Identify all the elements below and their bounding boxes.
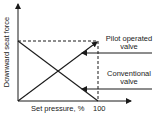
- x-tick-100: 100: [93, 105, 106, 113]
- pilot-label-line2: valve: [104, 43, 154, 51]
- diagram-canvas: [0, 0, 161, 118]
- conventional-label-line2: valve: [104, 78, 154, 86]
- y-axis-label: Downward seat force: [2, 17, 11, 87]
- pilot-operated-valve-line: [18, 42, 97, 101]
- x-axis-label: Set pressure, %: [31, 105, 84, 113]
